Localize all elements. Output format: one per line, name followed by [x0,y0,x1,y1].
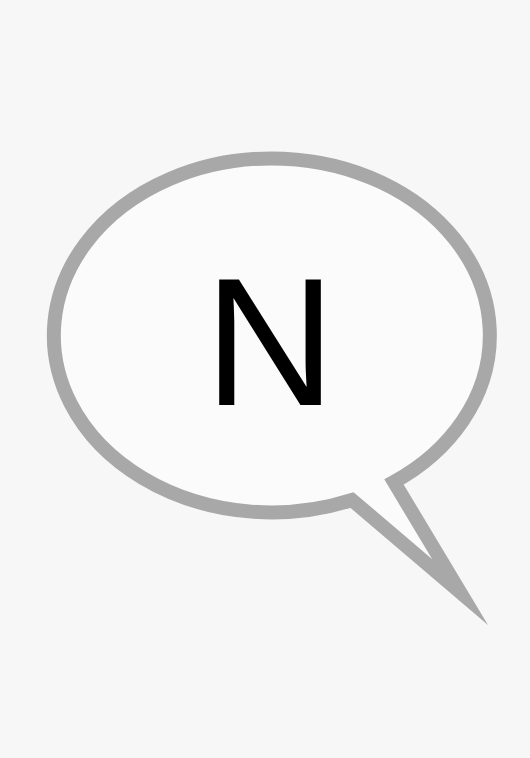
bubble-letter: N [190,252,350,432]
speech-bubble-canvas: N [0,0,530,758]
